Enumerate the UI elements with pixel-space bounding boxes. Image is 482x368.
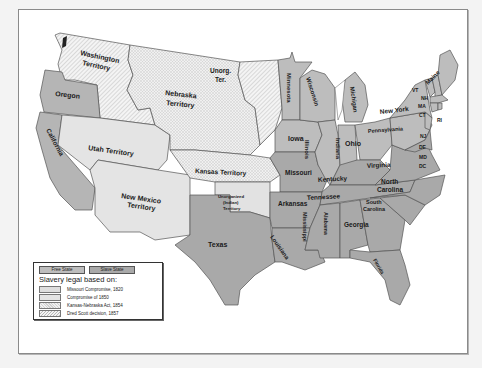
legend-slave-state: Slave State [89, 266, 135, 274]
legend-label: Dred Scott decision, 1857 [67, 311, 119, 316]
label-md: MD [419, 154, 427, 160]
legend-label: Kansas-Nebraska Act, 1854 [67, 303, 123, 308]
legend-free-state: Free State [39, 266, 85, 274]
svg-text:Unorganized: Unorganized [218, 194, 244, 199]
massachusetts [430, 95, 448, 103]
label-nj: NJ [420, 133, 427, 139]
legend-title: Slavery legal based on: [39, 275, 117, 284]
label-ri: RI [437, 117, 443, 123]
label-iowa: Iowa [288, 135, 304, 142]
label-georgia: Georgia [344, 221, 369, 229]
label-illinois: Illinois [304, 140, 310, 160]
label-ct: CT [419, 112, 426, 118]
label-ohio: Ohio [345, 140, 361, 147]
svg-text:Unorg.: Unorg. [210, 67, 231, 75]
legend-item-missouri-compromise: Missouri Compromise, 1820 [39, 286, 123, 293]
connecticut [430, 103, 438, 112]
label-de: DE [419, 144, 427, 150]
map-legend: Free State Slave State Slavery legal bas… [33, 262, 163, 320]
svg-text:Ter.: Ter. [215, 76, 226, 83]
label-indiana: Indiana [335, 138, 341, 160]
label-missouri: Missouri [285, 169, 312, 176]
label-unorg-2: Ter. [215, 76, 226, 83]
swatch-dred-scott [39, 310, 61, 317]
label-north-carolina-1: North [381, 178, 398, 185]
label-minnesota: Minnesota [286, 73, 292, 103]
maine [438, 50, 458, 95]
label-indian-2: (Indian) [223, 200, 239, 205]
label-dc: DC [419, 163, 427, 169]
swatch-missouri-compromise [39, 286, 61, 293]
legend-label: Compromise of 1850 [67, 295, 109, 300]
label-indian-1: Unorganized [218, 194, 244, 199]
svg-text:Territory: Territory [223, 206, 241, 211]
legend-item-compromise-1850: Compromise of 1850 [39, 294, 109, 301]
label-alabama: Alabama [323, 212, 329, 236]
label-mississippi: Mississippi [302, 212, 308, 242]
label-unorg-1: Unorg. [210, 67, 231, 75]
swatch-compromise-1850 [39, 294, 61, 301]
label-arkansas: Arkansas [278, 200, 308, 207]
label-texas: Texas [208, 241, 227, 248]
svg-text:Carolina: Carolina [363, 206, 386, 212]
svg-text:Carolina: Carolina [377, 186, 403, 193]
legend-label: Missouri Compromise, 1820 [67, 287, 123, 292]
legend-state-keys: Free State Slave State [39, 266, 135, 274]
label-north-carolina-2: Carolina [377, 186, 403, 193]
label-ma: MA [418, 103, 426, 109]
label-south-carolina-1: South [366, 199, 382, 205]
legend-item-kansas-nebraska: Kansas-Nebraska Act, 1854 [39, 302, 123, 309]
florida [350, 250, 410, 305]
swatch-kansas-nebraska [39, 302, 61, 309]
label-indian-3: Territory [223, 206, 241, 211]
label-vt: VT [412, 87, 418, 93]
rhode-island [438, 103, 442, 110]
svg-text:(Indian): (Indian) [223, 200, 239, 205]
svg-text:North: North [381, 178, 398, 185]
legend-item-dred-scott: Dred Scott decision, 1857 [39, 310, 119, 317]
ohio [355, 118, 392, 160]
svg-text:South: South [366, 199, 382, 205]
label-nh: NH [421, 95, 429, 101]
label-south-carolina-2: Carolina [363, 206, 386, 212]
